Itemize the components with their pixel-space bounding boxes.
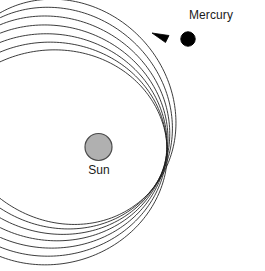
sun-circle <box>85 134 112 161</box>
mercury-body <box>181 32 195 46</box>
orbit-diagram <box>0 0 265 271</box>
orbit-ellipse <box>0 34 167 248</box>
arrow-head-icon <box>152 33 169 43</box>
sun-body <box>85 134 112 161</box>
mercury-precession-figure: Mercury Sun <box>0 0 265 271</box>
mercury-circle <box>181 32 195 46</box>
orbit-ellipse-group <box>0 0 176 265</box>
orbit-ellipse <box>0 16 170 234</box>
orbit-ellipse <box>0 0 176 224</box>
mercury-label: Mercury <box>189 9 233 22</box>
sun-label: Sun <box>85 164 113 177</box>
direction-of-motion-arrow <box>152 33 169 43</box>
